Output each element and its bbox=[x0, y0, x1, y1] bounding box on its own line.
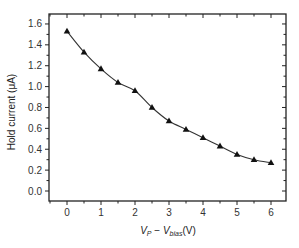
tick-labels: 01234560.00.20.40.60.81.01.21.41.6 bbox=[28, 18, 274, 218]
y-tick-label: 1.0 bbox=[28, 81, 42, 92]
y-axis-title: Hold current (μA) bbox=[6, 74, 17, 150]
y-tick-label: 1.6 bbox=[28, 18, 42, 29]
y-tick-label: 1.2 bbox=[28, 60, 42, 71]
triangle-marker bbox=[64, 28, 71, 34]
y-tick-label: 1.4 bbox=[28, 39, 42, 50]
triangle-marker bbox=[166, 118, 173, 124]
x-tick-label: 0 bbox=[64, 207, 70, 218]
series-line bbox=[67, 31, 271, 163]
x-label-minus: − bbox=[152, 225, 163, 236]
y-tick-label: 0.6 bbox=[28, 123, 42, 134]
triangle-marker bbox=[115, 79, 122, 85]
x-tick-label: 4 bbox=[200, 207, 206, 218]
x-tick-label: 2 bbox=[132, 207, 138, 218]
y-tick-label: 0.8 bbox=[28, 102, 42, 113]
plot-frame bbox=[49, 14, 286, 201]
hold-current-chart: 01234560.00.20.40.60.81.01.21.41.6 Hold … bbox=[0, 0, 299, 248]
x-label-unit: (V) bbox=[182, 225, 195, 236]
x-tick-label: 5 bbox=[234, 207, 240, 218]
axis-ticks bbox=[45, 14, 286, 205]
y-tick-label: 0.0 bbox=[28, 186, 42, 197]
triangle-marker bbox=[132, 87, 139, 93]
x-label-sub2: bias bbox=[170, 230, 183, 237]
data-series bbox=[64, 28, 275, 165]
x-tick-label: 3 bbox=[166, 207, 172, 218]
y-tick-label: 0.2 bbox=[28, 165, 42, 176]
x-tick-label: 1 bbox=[98, 207, 104, 218]
x-tick-label: 6 bbox=[268, 207, 274, 218]
x-axis-title: VP − Vbias(V) bbox=[140, 225, 196, 237]
y-tick-label: 0.4 bbox=[28, 144, 42, 155]
